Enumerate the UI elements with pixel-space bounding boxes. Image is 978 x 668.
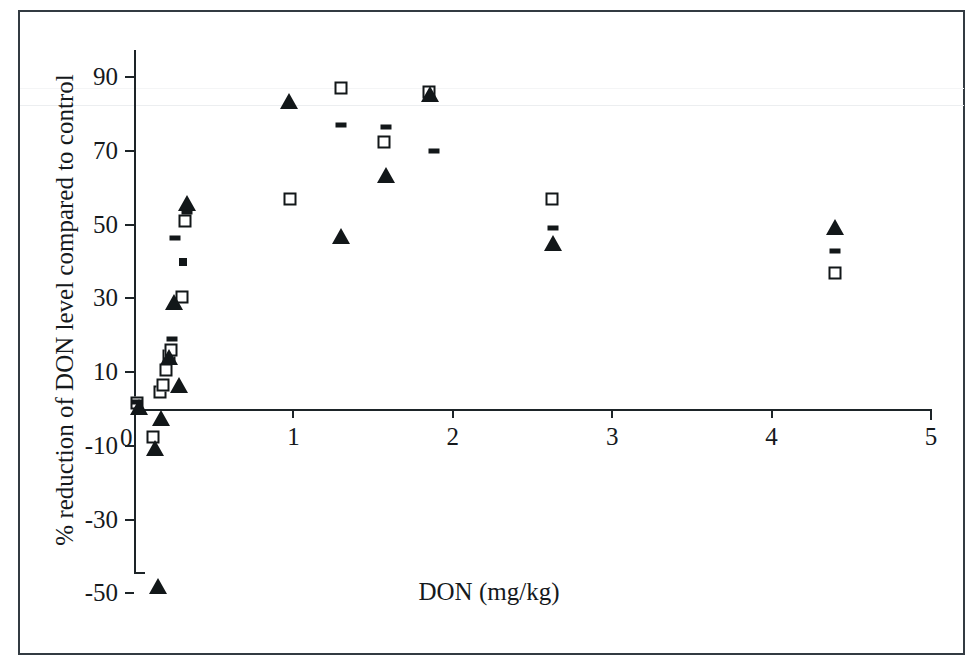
x-tick-mark: [611, 409, 613, 418]
x-tick-label: 5: [911, 424, 951, 449]
data-point-triangle: [421, 86, 439, 102]
x-tick-mark: [292, 409, 294, 418]
x-tick-mark: [452, 409, 454, 418]
data-point-dash: [428, 149, 439, 154]
data-point-square: [156, 379, 169, 392]
x-tick-label: 2: [433, 424, 473, 449]
origin-zero-label: 0: [120, 424, 133, 452]
data-point-dash: [830, 248, 841, 253]
y-tick-mark: [125, 519, 134, 521]
x-tick-label: 1: [273, 424, 313, 449]
data-point-triangle: [146, 440, 164, 456]
y-axis-endcap: [134, 572, 145, 574]
data-point-triangle: [178, 195, 196, 211]
x-axis-title: DON (mg/kg): [0, 578, 978, 606]
data-point-dash: [336, 123, 347, 128]
data-point-triangle: [826, 219, 844, 235]
data-point-dash: [170, 235, 181, 240]
y-axis-line: [134, 50, 136, 574]
data-point-dash: [132, 399, 143, 404]
data-point-square: [335, 82, 348, 95]
data-point-triangle: [160, 349, 178, 365]
data-point-dash: [380, 125, 391, 130]
x-tick-mark: [771, 409, 773, 418]
data-point-square: [545, 192, 558, 205]
data-point-triangle: [165, 294, 183, 310]
data-point-triangle: [170, 377, 188, 393]
y-tick-mark: [125, 297, 134, 299]
data-point-square: [159, 364, 172, 377]
data-point-dash: [167, 336, 178, 341]
data-point-triangle: [544, 235, 562, 251]
x-axis-endcap: [930, 409, 932, 420]
data-point-triangle: [280, 93, 298, 109]
y-tick-mark: [125, 224, 134, 226]
data-point-triangle: [377, 167, 395, 183]
y-tick-mark: [125, 150, 134, 152]
x-tick-label: 4: [752, 424, 792, 449]
figure-container: -50-30-101030507090 12345 0 DON (mg/kg) …: [0, 0, 978, 668]
x-axis-line: [134, 409, 932, 411]
plot-area: -50-30-101030507090 12345 0 DON (mg/kg) …: [0, 0, 978, 668]
data-point-square: [829, 266, 842, 279]
data-point-triangle: [332, 228, 350, 244]
data-point-square: [378, 135, 391, 148]
y-tick-mark: [125, 76, 134, 78]
y-tick-mark: [125, 371, 134, 373]
data-point-square: [179, 215, 192, 228]
x-tick-label: 3: [592, 424, 632, 449]
data-point-dash: [548, 226, 559, 231]
y-axis-title: % reduction of DON level compared to con…: [51, 60, 79, 560]
data-point-triangle: [152, 410, 170, 426]
data-point-square: [284, 192, 297, 205]
data-point-dash: [181, 209, 192, 214]
data-point-dot: [179, 258, 187, 266]
